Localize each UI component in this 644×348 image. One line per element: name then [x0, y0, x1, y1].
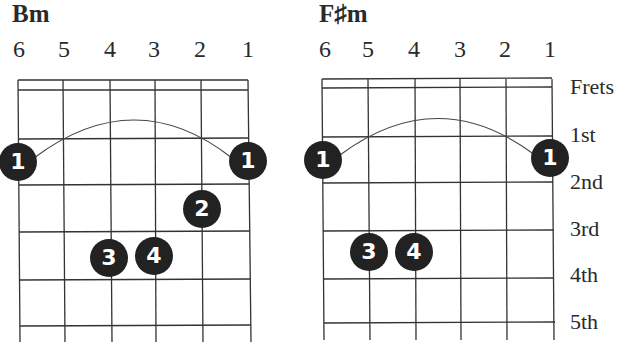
finger-dot: 1: [531, 139, 569, 177]
finger-dot: 3: [350, 233, 388, 271]
fretboard-fsharpm: [322, 78, 555, 340]
finger-dot: 4: [395, 233, 433, 271]
fret-label-4th: 4th: [570, 262, 598, 288]
fret-label-5th: 5th: [570, 309, 598, 335]
finger-dot: 1: [304, 141, 342, 179]
fret-label-1st: 1st: [570, 122, 596, 148]
finger-dot: 1: [0, 143, 37, 181]
fret-label-2nd: 2nd: [570, 169, 603, 195]
finger-dot: 1: [229, 142, 267, 180]
finger-dot: 3: [90, 239, 128, 277]
finger-dot: 2: [183, 190, 221, 228]
fret-label-frets: Frets: [570, 74, 614, 100]
fret-label-3rd: 3rd: [570, 216, 599, 242]
finger-dot: 4: [135, 237, 173, 275]
